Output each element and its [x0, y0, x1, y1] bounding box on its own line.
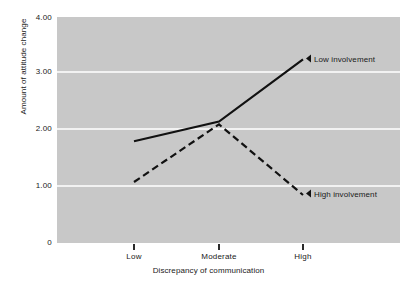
x-tick-label-high: High [294, 252, 311, 261]
annotation-low-involvement: Low involvement [306, 55, 375, 64]
gridline-3 [57, 71, 400, 73]
chart-figure: 4.00 3.00 2.00 1.00 0 Amount of attitude… [0, 0, 417, 285]
annotation-high-involvement: High involvement [306, 190, 377, 199]
y-tick-label-0: 0 [14, 238, 52, 247]
x-tick-label-low: Low [126, 252, 141, 261]
gridline-2 [57, 128, 400, 130]
y-tick-label-1: 1.00 [14, 181, 52, 190]
annotation-low-involvement-text: Low involvement [314, 55, 375, 64]
y-axis-title: Amount of attitude change [19, 0, 28, 137]
x-tick-low [133, 244, 135, 250]
x-tick-label-moderate: Moderate [201, 252, 236, 261]
left-triangle-icon [306, 55, 311, 63]
x-tick-high [302, 244, 304, 250]
x-axis-title: Discrepancy of communication [0, 266, 417, 275]
gridline-1 [57, 185, 400, 187]
left-triangle-icon [306, 190, 311, 198]
x-tick-moderate [218, 244, 220, 250]
plot-area [57, 17, 400, 243]
annotation-high-involvement-text: High involvement [314, 190, 377, 199]
